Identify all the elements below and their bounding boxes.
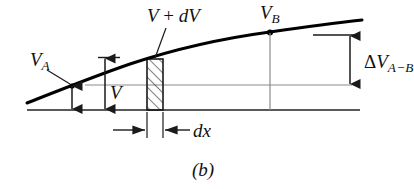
- figure-caption-text: (b): [192, 159, 214, 180]
- velocity-curve: [27, 20, 362, 103]
- label-v-b-base: V: [260, 2, 272, 23]
- label-v-b-sub: B: [272, 11, 280, 26]
- figure-caption: (b): [192, 160, 214, 179]
- label-v-plus-dv-base: V: [147, 5, 159, 26]
- label-v-base: V: [110, 82, 122, 103]
- label-delta-v-a-b: ΔVA−B: [364, 52, 414, 74]
- label-v-b: VB: [260, 3, 280, 25]
- label-v-a: VA: [30, 50, 50, 72]
- differential-element-hatched: [147, 59, 163, 110]
- label-dx: dx: [193, 121, 211, 140]
- label-v-plus-dv: V + dV: [147, 6, 200, 25]
- label-v-a-base: V: [30, 49, 42, 70]
- label-v: V: [110, 83, 122, 102]
- leader-line-va: [47, 70, 70, 84]
- delta-symbol-icon: Δ: [364, 51, 376, 72]
- label-v-plus-dv-operator: +: [159, 5, 179, 26]
- label-dx-text: dx: [193, 120, 211, 141]
- label-v-a-sub: A: [42, 58, 50, 73]
- label-v-plus-dv-second: dV: [179, 5, 200, 26]
- label-delta-v-sub: A−B: [388, 60, 414, 75]
- label-delta-v-base: V: [376, 51, 388, 72]
